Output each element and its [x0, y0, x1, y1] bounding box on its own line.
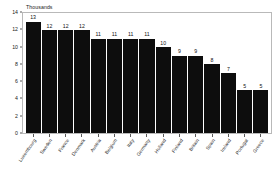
bar-value-label: 12 [47, 24, 53, 29]
x-axis-category-label: Austria [90, 138, 103, 153]
bars-container: 131212121111111110998755 [23, 13, 271, 133]
x-axis-tick-mark [244, 134, 245, 137]
x-axis-category-label: Luxembourg [18, 138, 37, 163]
bar-item[interactable]: 11 [107, 13, 122, 133]
bar-chart: Thousands 02468101214 131212121111111110… [0, 0, 280, 174]
bar-rect[interactable] [253, 90, 268, 133]
y-axis-tick-label: 2 [15, 113, 18, 119]
x-axis-category-label: Finland [170, 138, 183, 154]
bar-rect[interactable] [188, 56, 203, 133]
x-axis-label-slot: Sweden [42, 138, 57, 174]
x-axis-tick-mark [195, 134, 196, 137]
x-axis-label-slot: Portugal [237, 138, 252, 174]
bar-value-label: 7 [227, 67, 230, 72]
bar-value-label: 8 [211, 58, 214, 63]
bar-value-label: 12 [63, 24, 69, 29]
bar-value-label: 5 [243, 84, 246, 89]
bar-item[interactable]: 10 [156, 13, 171, 133]
x-axis-label-slot: Spain [204, 138, 219, 174]
bar-value-label: 13 [30, 15, 36, 20]
y-axis-tick-label: 14 [12, 9, 18, 15]
bar-rect[interactable] [74, 30, 89, 133]
bar-value-label: 5 [259, 84, 262, 89]
bar-rect[interactable] [91, 39, 106, 133]
bar-value-label: 11 [96, 32, 101, 37]
x-axis-label-slot: Greece [253, 138, 268, 174]
x-axis-label-slot: Austria [91, 138, 106, 174]
x-axis-label-slot: Italy [123, 138, 138, 174]
x-axis-tick-mark [146, 134, 147, 137]
x-axis-category-label: Holland [154, 138, 167, 154]
x-axis-tick-mark [260, 134, 261, 137]
bar-rect[interactable] [107, 39, 122, 133]
y-axis-tick-label: 4 [15, 95, 18, 101]
x-axis-tick-mark [81, 134, 82, 137]
x-axis-tick-mark [212, 134, 213, 137]
bar-rect[interactable] [237, 90, 252, 133]
x-axis-category-label: France [57, 138, 70, 153]
x-axis-tick-mark [65, 134, 66, 137]
x-axis-category-label: Italy [126, 138, 135, 148]
bar-item[interactable]: 9 [172, 13, 187, 133]
bar-rect[interactable] [156, 47, 171, 133]
bar-rect[interactable] [42, 30, 57, 133]
x-axis-category-label: Belgium [105, 138, 119, 155]
bar-item[interactable]: 9 [188, 13, 203, 133]
bar-rect[interactable] [204, 64, 219, 133]
y-axis-tick-label: 10 [12, 44, 18, 50]
bar-item[interactable]: 12 [74, 13, 89, 133]
bar-rect[interactable] [139, 39, 154, 133]
x-axis-category-labels: LuxembourgSwedenFranceDenmarkAustriaBelg… [23, 138, 271, 174]
x-axis-label-slot: Ireland [221, 138, 236, 174]
bar-rect[interactable] [26, 22, 41, 133]
x-axis-label-slot: Luxembourg [26, 138, 41, 174]
y-axis-tick-label: 8 [15, 61, 18, 67]
bar-item[interactable]: 12 [58, 13, 73, 133]
axis-units-title: Thousands [26, 4, 53, 10]
bar-item[interactable]: 7 [221, 13, 236, 133]
x-axis-tick-mark [98, 134, 99, 137]
bar-item[interactable]: 11 [91, 13, 106, 133]
x-axis-category-label: Portugal [234, 138, 248, 156]
bar-value-label: 11 [128, 32, 133, 37]
bar-value-label: 10 [160, 41, 166, 46]
bar-item[interactable]: 12 [42, 13, 57, 133]
x-axis-tick-mark [114, 134, 115, 137]
bar-item[interactable]: 11 [123, 13, 138, 133]
x-axis-tick-mark [130, 134, 131, 137]
y-axis-tick-label: 12 [12, 26, 18, 32]
bar-rect[interactable] [221, 73, 236, 133]
bar-value-label: 11 [144, 32, 149, 37]
x-axis-category-label: Britain [188, 138, 200, 152]
bar-item[interactable]: 8 [204, 13, 219, 133]
x-axis-tick-mark [49, 134, 50, 137]
x-axis-label-slot: Denmark [74, 138, 89, 174]
bar-value-label: 9 [178, 49, 181, 54]
bar-item[interactable]: 11 [139, 13, 154, 133]
y-axis-tick-label: 6 [15, 78, 18, 84]
bar-value-label: 11 [112, 32, 117, 37]
x-axis-tick-mark [33, 134, 34, 137]
x-axis-tick-mark [163, 134, 164, 137]
y-axis-tick-label: 0 [15, 130, 18, 136]
x-axis-label-slot: Finland [172, 138, 187, 174]
bar-rect[interactable] [172, 56, 187, 133]
bar-item[interactable]: 5 [253, 13, 268, 133]
bar-value-label: 12 [79, 24, 85, 29]
bar-rect[interactable] [123, 39, 138, 133]
x-axis-category-label: Sweden [39, 138, 53, 155]
x-axis-label-slot: France [58, 138, 73, 174]
bar-value-label: 9 [194, 49, 197, 54]
x-axis-category-label: Spain [205, 138, 216, 151]
x-axis-tick-mark [179, 134, 180, 137]
x-axis-label-slot: Germany [139, 138, 154, 174]
x-axis-label-slot: Britain [188, 138, 203, 174]
x-axis-category-label: Greece [252, 138, 265, 154]
y-axis: 02468101214 [0, 12, 22, 134]
x-axis-label-slot: Belgium [107, 138, 122, 174]
bar-item[interactable]: 5 [237, 13, 252, 133]
x-axis-label-slot: Holland [156, 138, 171, 174]
bar-rect[interactable] [58, 30, 73, 133]
bar-item[interactable]: 13 [26, 13, 41, 133]
x-axis-category-label: Ireland [220, 138, 233, 153]
